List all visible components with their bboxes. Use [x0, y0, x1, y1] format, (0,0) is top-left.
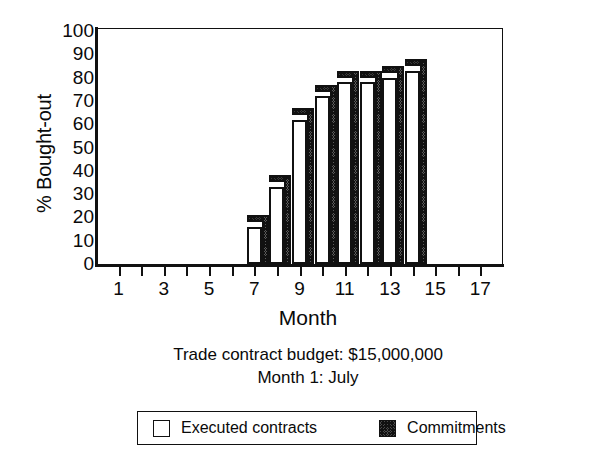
x-tick-mark — [322, 267, 324, 276]
bar-chart-figure: % Bought-out 0102030405060708090100 1357… — [0, 0, 616, 459]
y-tick-label: 10 — [48, 231, 94, 250]
y-tick-label: 50 — [48, 138, 94, 157]
bar-side-face-commitments — [420, 59, 427, 264]
x-tick-label: 15 — [415, 278, 455, 300]
x-tick-mark — [458, 267, 460, 276]
y-tick-label: 40 — [48, 161, 94, 180]
x-tick-mark — [209, 267, 211, 276]
x-tick-mark — [390, 267, 392, 276]
legend-swatch-commitments-icon — [379, 420, 396, 437]
bar-front-face-executed-contracts — [337, 82, 352, 264]
bar-group — [247, 215, 269, 264]
bar-group — [360, 71, 382, 264]
bar-group — [315, 85, 337, 264]
bar-front-face-executed-contracts — [247, 227, 262, 264]
bar-side-face-commitments — [352, 71, 359, 264]
x-tick-mark — [345, 267, 347, 276]
legend-label-executed-contracts: Executed contracts — [181, 419, 317, 437]
x-tick-mark — [300, 267, 302, 276]
y-axis-ticks: 0102030405060708090100 — [36, 0, 94, 459]
bar-group — [292, 108, 314, 264]
bar-side-face-commitments — [262, 215, 269, 264]
x-tick-label: 11 — [325, 278, 365, 300]
legend-entry-executed-contracts[interactable]: Executed contracts — [153, 419, 317, 437]
bar-front-face-executed-contracts — [292, 120, 307, 264]
bar-side-face-commitments — [330, 85, 337, 264]
y-tick-label: 100 — [48, 21, 94, 40]
bar-front-face-executed-contracts — [360, 82, 375, 264]
y-tick-label: 20 — [48, 207, 94, 226]
x-tick-mark — [164, 267, 166, 276]
bar-side-face-commitments — [397, 66, 404, 264]
caption-start-month: Month 1: July — [0, 368, 616, 388]
x-tick-label: 7 — [234, 278, 274, 300]
x-tick-label: 17 — [460, 278, 500, 300]
legend-swatch-executed-contracts-icon — [153, 420, 170, 437]
x-axis-title: Month — [0, 306, 616, 330]
y-tick-label: 80 — [48, 68, 94, 87]
bar-group — [405, 59, 427, 264]
legend-label-commitments: Commitments — [407, 419, 506, 437]
x-tick-mark — [254, 267, 256, 276]
bar-front-face-executed-contracts — [405, 71, 420, 264]
bar-group — [382, 66, 404, 264]
x-tick-mark — [232, 267, 234, 276]
y-tick-label: 0 — [48, 254, 94, 273]
bar-side-face-commitments — [284, 175, 291, 264]
bar-group — [269, 175, 291, 264]
bar-front-face-executed-contracts — [269, 187, 284, 264]
y-axis-line — [95, 27, 98, 267]
bar-side-face-commitments — [375, 71, 382, 264]
legend-entry-commitments[interactable]: Commitments — [379, 419, 506, 437]
chart-legend: Executed contracts Commitments — [137, 411, 477, 445]
x-tick-label: 3 — [144, 278, 184, 300]
bar-group — [337, 71, 359, 264]
bar-side-face-commitments — [307, 108, 314, 264]
x-tick-label: 1 — [99, 278, 139, 300]
x-tick-label: 5 — [189, 278, 229, 300]
x-tick-mark — [119, 267, 121, 276]
x-tick-mark — [277, 267, 279, 276]
y-tick-label: 30 — [48, 184, 94, 203]
y-tick-label: 60 — [48, 114, 94, 133]
x-tick-mark — [435, 267, 437, 276]
x-tick-mark — [413, 267, 415, 276]
x-tick-label: 13 — [370, 278, 410, 300]
caption-trade-contract-budget: Trade contract budget: $15,000,000 — [0, 345, 616, 365]
y-tick-label: 70 — [48, 91, 94, 110]
x-tick-mark — [480, 267, 482, 276]
x-tick-label: 9 — [280, 278, 320, 300]
y-tick-label: 90 — [48, 44, 94, 63]
x-tick-mark — [367, 267, 369, 276]
x-tick-mark — [141, 267, 143, 276]
bar-front-face-executed-contracts — [315, 96, 330, 264]
bar-front-face-executed-contracts — [382, 78, 397, 264]
x-tick-mark — [186, 267, 188, 276]
